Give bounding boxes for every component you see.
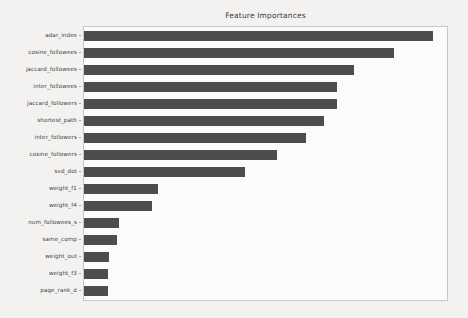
bar (84, 286, 108, 296)
y-axis-tick-label: weight_f3 (49, 265, 77, 281)
chart-title: Feature Importances (83, 11, 448, 20)
y-axis-tick-label: num_followees_s (28, 214, 77, 230)
y-axis-tick-mark (79, 69, 81, 70)
y-axis-tick-label: weight_out (45, 248, 77, 264)
y-axis-tick-mark (79, 171, 81, 172)
bar (84, 133, 306, 143)
y-axis-tick-mark (79, 256, 81, 257)
bar (84, 48, 394, 58)
bar (84, 269, 108, 279)
y-axis-tick-mark (79, 154, 81, 155)
bar-row (84, 215, 447, 231)
y-axis-tick-label: page_rank_d (40, 282, 77, 298)
bar-row (84, 283, 447, 299)
bar (84, 218, 119, 228)
y-axis-tick-label: inter_followees (33, 78, 77, 94)
y-axis-tick-label: jaccard_followers (27, 95, 77, 111)
y-axis-tick-mark (79, 103, 81, 104)
bar-row (84, 249, 447, 265)
bar-row (84, 181, 447, 197)
y-axis-tick-mark (79, 35, 81, 36)
bar (84, 150, 277, 160)
bar-row (84, 130, 447, 146)
y-axis-tick-mark (79, 273, 81, 274)
bar-row (84, 96, 447, 112)
y-axis-tick-label: jaccard_followees (26, 61, 77, 77)
bar (84, 99, 337, 109)
bar-row (84, 62, 447, 78)
bar (84, 31, 433, 41)
bar-row (84, 79, 447, 95)
bar (84, 82, 337, 92)
y-axis-tick-mark (79, 137, 81, 138)
y-axis-tick-label: same_comp (43, 231, 77, 247)
bar (84, 116, 324, 126)
bar-row (84, 28, 447, 44)
bar (84, 252, 109, 262)
bar-row (84, 164, 447, 180)
bar-row (84, 232, 447, 248)
y-axis-tick-mark (79, 239, 81, 240)
y-axis-tick-mark (79, 120, 81, 121)
x-axis-labels (83, 302, 448, 314)
bar (84, 65, 354, 75)
y-axis-tick-label: cosine_followers (29, 146, 77, 162)
plot-area (83, 26, 448, 301)
y-axis-tick-mark (79, 188, 81, 189)
bar (84, 201, 152, 211)
y-axis-tick-label: svd_dot (55, 163, 77, 179)
bar-row (84, 198, 447, 214)
y-axis-tick-label: weight_f1 (49, 180, 77, 196)
bar-row (84, 45, 447, 61)
y-axis-labels: adar_indexcosine_followeesjaccard_follow… (0, 26, 81, 301)
bar (84, 184, 158, 194)
y-axis-tick-label: adar_index (45, 27, 77, 43)
bar-row (84, 266, 447, 282)
y-axis-tick-mark (79, 52, 81, 53)
y-axis-tick-label: shortest_path (37, 112, 77, 128)
bar-row (84, 147, 447, 163)
y-axis-tick-mark (79, 290, 81, 291)
y-axis-tick-mark (79, 86, 81, 87)
feature-importances-figure: Feature Importances adar_indexcosine_fol… (0, 0, 468, 318)
bar (84, 235, 117, 245)
bar (84, 167, 245, 177)
y-axis-tick-mark (79, 222, 81, 223)
y-axis-tick-label: cosine_followees (28, 44, 77, 60)
y-axis-tick-mark (79, 205, 81, 206)
y-axis-tick-label: weight_f4 (49, 197, 77, 213)
y-axis-tick-label: inter_followers (35, 129, 77, 145)
bar-row (84, 113, 447, 129)
bars-layer (84, 27, 447, 300)
